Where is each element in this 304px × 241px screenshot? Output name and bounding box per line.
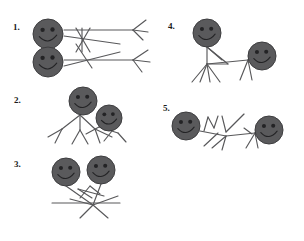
left-eye-icon [179, 120, 183, 124]
limb-line [200, 131, 226, 136]
limb-line [208, 117, 214, 128]
stick-figure-pair-drawing [0, 0, 304, 241]
smiley-head-icon [172, 112, 200, 140]
limb-line [222, 116, 226, 132]
right-eye-icon [188, 120, 192, 124]
left-eye-icon [262, 124, 266, 128]
limb-line [226, 114, 244, 132]
head-circle [255, 116, 283, 144]
limb-line [244, 128, 252, 134]
smiley-head-icon [255, 116, 283, 144]
figure-item-5: 5. [0, 0, 304, 241]
limb-line [246, 133, 255, 148]
worksheet-canvas: 1.2.3.4.5. [0, 0, 304, 241]
limb-line [204, 117, 208, 131]
head-circle [172, 112, 200, 140]
right-eye-icon [271, 124, 275, 128]
limb-group [200, 114, 258, 150]
limb-line [214, 116, 218, 128]
